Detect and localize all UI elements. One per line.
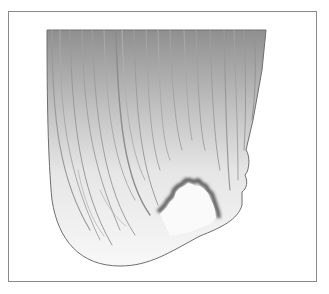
illustration [0,0,329,294]
shape-body [47,30,266,266]
